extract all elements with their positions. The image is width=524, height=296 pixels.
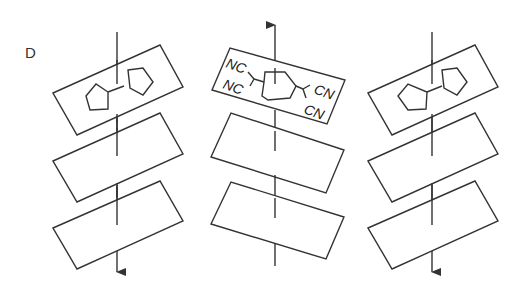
right-column [368,32,498,272]
diagram-svg: NC NC CN CN [0,0,524,296]
middle-layer-2 [211,113,344,193]
middle-layer-3 [211,182,344,259]
left-column [53,32,183,272]
stacking-diagram: D [0,0,524,296]
